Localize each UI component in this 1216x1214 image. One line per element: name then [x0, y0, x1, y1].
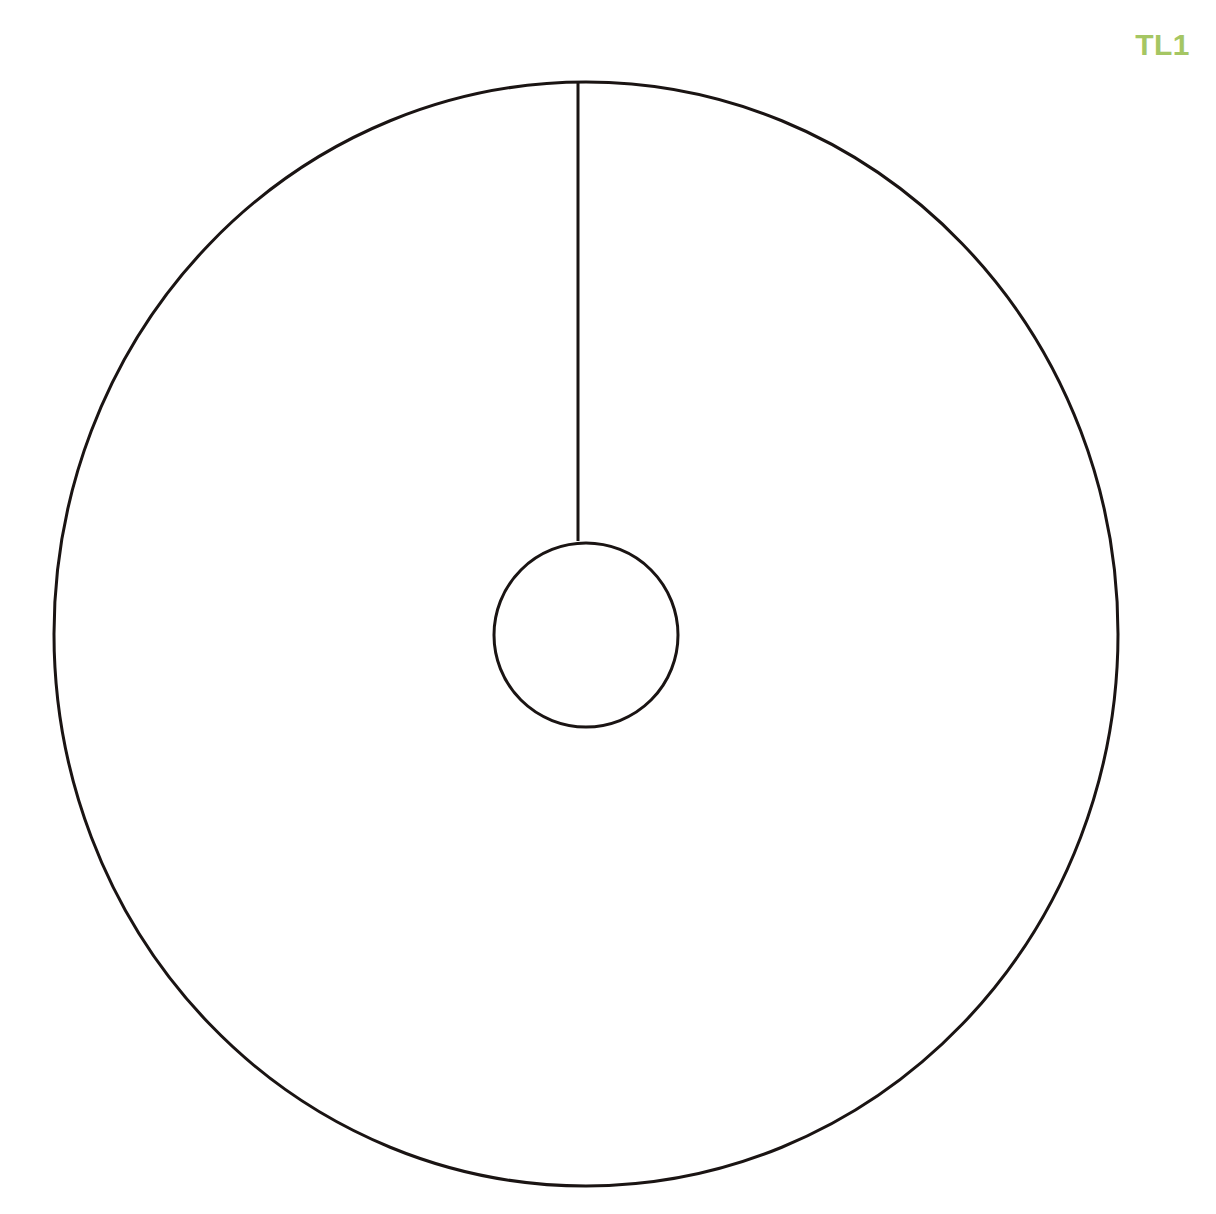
canvas-background: [0, 0, 1216, 1214]
view-label-tl1: TL1: [1135, 30, 1190, 60]
technical-drawing-canvas: [0, 0, 1216, 1214]
